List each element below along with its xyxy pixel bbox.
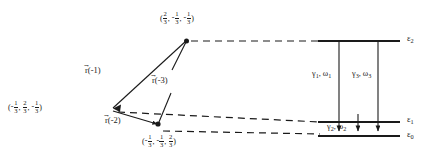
vector-label-r3: →r(-3) [152, 76, 168, 85]
dashed-line-to-eps1 [118, 112, 320, 122]
origin-coordinate-label: (-13, 23, -13) [8, 100, 42, 114]
transition-label-1: γ1, ω1 [312, 69, 331, 79]
energy-level-label-eps1: ε1 [407, 115, 414, 125]
lattice-point-upper [184, 39, 189, 44]
dashed-line-to-eps0 [163, 131, 320, 134]
transition-label-2: γ2, ω2 [327, 122, 346, 132]
vector-line-r3 [172, 42, 186, 70]
vector-line-r3-lower [159, 93, 171, 122]
lattice-point-lower [155, 121, 160, 126]
energy-level-label-eps0: ε0 [407, 130, 414, 140]
vector-label-r1: →r(-1) [85, 66, 101, 75]
energy-level-label-eps2: ε2 [407, 34, 414, 44]
upper-coordinate-label: (23, -13, -13) [160, 11, 194, 25]
figure-canvas: (-13, 23, -13) (23, -13, -13) (-13, -13,… [0, 0, 434, 162]
lower-coordinate-label: (-13, -13, 23) [142, 134, 176, 148]
transition-label-3: γ3, ω3 [352, 69, 371, 79]
vector-label-r2: →r(-2) [105, 116, 121, 125]
diagram-lines [0, 0, 434, 162]
